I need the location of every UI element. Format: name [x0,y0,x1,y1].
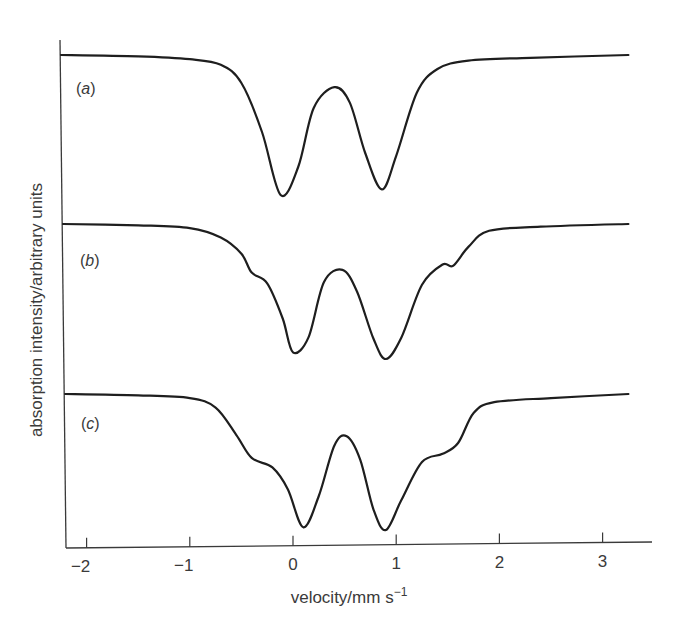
curve-label-c: (c) [81,415,100,432]
x-tick-label: 1 [391,554,400,573]
x-tick-label: −2 [71,557,90,576]
y-axis [60,40,66,548]
curve-label-b: (b) [80,252,100,269]
curve-label-a: (a) [76,80,96,97]
spectrum-curve-b [63,224,628,359]
x-axis-title: velocity/mm s−1 [291,585,408,607]
mossbauer-spectra-chart: −2−10123 (a) (b) (c) velocity/mm s−1 abs… [0,0,683,631]
x-tick-label: 2 [495,553,504,572]
x-tick-label: 3 [598,552,607,571]
x-axis [66,542,652,548]
x-tick-label: 0 [288,555,297,574]
x-tick-label: −1 [174,556,193,575]
y-axis-title: absorption intensity/arbitrary units [27,183,46,437]
spectrum-curve-a [61,55,628,196]
x-axis-tick-labels: −2−10123 [71,552,607,576]
spectrum-curve-c [65,394,628,530]
